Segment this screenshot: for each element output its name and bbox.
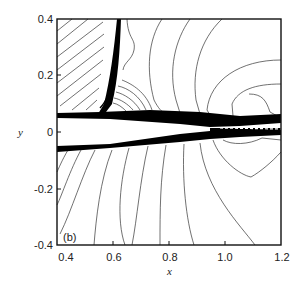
y-tick-0.2: 0.2 xyxy=(38,69,53,81)
shock-wave xyxy=(98,19,121,114)
y-tick-neg0.2: -0.2 xyxy=(34,183,53,195)
contour-lines-lower xyxy=(57,138,281,245)
y-tick-neg0.4: -0.4 xyxy=(34,239,53,251)
x-tick-0.8: 0.8 xyxy=(162,251,177,263)
contour-plot: 0.4 0.2 0 -0.2 -0.4 0.4 0.6 0.8 1.0 1.2 … xyxy=(0,0,304,290)
contour-lines-upper-right xyxy=(113,19,281,118)
y-tick-0.4: 0.4 xyxy=(38,13,53,25)
x-tick-1.2: 1.2 xyxy=(274,251,289,263)
y-axis-label: y xyxy=(17,126,23,138)
y-tick-0: 0 xyxy=(47,126,53,138)
contour-lines-upper-left xyxy=(57,19,104,110)
x-tick-1.0: 1.0 xyxy=(217,251,232,263)
x-axis-label: x xyxy=(166,265,172,277)
axis-ticks xyxy=(57,75,225,245)
panel-label: (b) xyxy=(63,231,76,243)
airfoil-and-wake xyxy=(57,110,281,152)
x-tick-0.4: 0.4 xyxy=(58,251,73,263)
x-tick-0.6: 0.6 xyxy=(106,251,121,263)
